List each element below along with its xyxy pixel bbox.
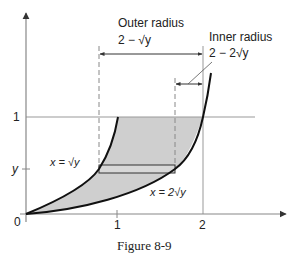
x-tick-label-2: 2 (199, 218, 206, 232)
origin-label: 0 (14, 215, 21, 229)
inner-radius-leader (188, 62, 212, 84)
inner-radius-expr: 2 − 2√y (209, 46, 249, 60)
strip-rectangle (99, 165, 175, 173)
figure-caption: Figure 8-9 (117, 238, 172, 253)
outer-radius-expr: 2 − √y (118, 33, 151, 47)
right-curve-label: x = 2√y (149, 186, 187, 198)
figure-canvas: Outer radius 2 − √y Inner radius 2 − 2√y… (0, 0, 295, 257)
y-tick-label-y: y (11, 162, 19, 176)
x-tick-label-1: 1 (114, 218, 121, 232)
inner-radius-title: Inner radius (209, 30, 272, 44)
y-tick-label-1: 1 (13, 110, 20, 124)
outer-radius-title: Outer radius (118, 16, 184, 30)
left-curve-label: x = √y (49, 156, 81, 168)
